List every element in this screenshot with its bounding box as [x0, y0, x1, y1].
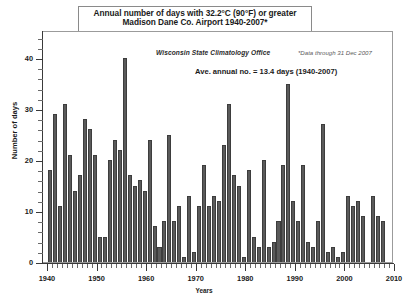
y-tick-minor	[38, 49, 43, 50]
annotation-footnote: *Data through 31 Dec 2007	[298, 49, 372, 56]
bar	[162, 221, 166, 262]
bar	[103, 237, 107, 263]
y-tick-minor	[38, 171, 43, 172]
x-tick-minor	[131, 264, 132, 268]
x-tick-minor	[320, 264, 321, 268]
x-tick-minor	[255, 264, 256, 268]
x-tick-minor	[310, 264, 311, 268]
x-tick-minor	[121, 264, 122, 268]
x-tick-minor	[151, 264, 152, 268]
x-tick-minor	[235, 264, 236, 268]
x-tick-minor	[369, 264, 370, 268]
chart-title-box: Annual number of days with 32.2°C (90°F)…	[78, 6, 312, 32]
x-tick-minor	[126, 264, 127, 268]
bar	[291, 201, 295, 262]
x-tick-minor	[136, 264, 137, 268]
x-tick-minor	[290, 264, 291, 268]
bar	[73, 191, 77, 262]
y-tick-major	[36, 161, 43, 162]
y-tick-label: 10	[9, 207, 33, 216]
x-tick-major	[245, 264, 246, 271]
x-tick-minor	[77, 264, 78, 268]
bar	[311, 247, 315, 262]
x-tick-major	[394, 264, 395, 271]
x-tick-label: 1990	[275, 274, 315, 283]
x-tick-minor	[225, 264, 226, 268]
x-tick-major	[146, 264, 147, 271]
bar	[143, 191, 147, 262]
x-tick-minor	[270, 264, 271, 268]
y-tick-label: 40	[9, 54, 33, 63]
bar	[133, 186, 137, 263]
bar	[53, 114, 57, 262]
bar	[68, 155, 72, 262]
y-tick-label: 0	[9, 258, 33, 267]
y-axis-line	[42, 31, 43, 264]
bar	[341, 252, 345, 262]
x-tick-minor	[260, 264, 261, 268]
bar-series	[43, 31, 393, 262]
bar	[232, 175, 236, 262]
plot-area: Wisconsin State Climatology Office *Data…	[42, 31, 393, 263]
x-tick-minor	[82, 264, 83, 268]
annotation-average: Ave. annual no. = 13.4 days (1940-2007)	[195, 67, 337, 76]
y-tick-minor	[38, 141, 43, 142]
x-tick-minor	[265, 264, 266, 268]
x-tick-minor	[325, 264, 326, 268]
x-tick-minor	[335, 264, 336, 268]
y-tick-minor	[38, 253, 43, 254]
x-axis-line	[42, 263, 394, 264]
bar	[286, 84, 290, 263]
bar	[207, 206, 211, 262]
bar	[361, 216, 365, 262]
x-tick-minor	[57, 264, 58, 268]
y-tick-major	[36, 110, 43, 111]
x-tick-minor	[106, 264, 107, 268]
bar	[118, 150, 122, 262]
bar	[192, 252, 196, 262]
bar	[296, 221, 300, 262]
bar	[148, 140, 152, 262]
x-tick-label: 1940	[27, 274, 67, 283]
bar	[276, 221, 280, 262]
x-axis-title: Years	[0, 287, 408, 294]
bar	[262, 160, 266, 262]
bar	[217, 201, 221, 262]
bar	[376, 216, 380, 262]
x-tick-label: 2000	[324, 274, 364, 283]
y-tick-minor	[38, 39, 43, 40]
x-tick-minor	[166, 264, 167, 268]
x-tick-minor	[116, 264, 117, 268]
x-tick-minor	[186, 264, 187, 268]
bar	[138, 180, 142, 262]
x-tick-minor	[330, 264, 331, 268]
y-tick-minor	[38, 100, 43, 101]
bar	[48, 170, 52, 262]
y-tick-minor	[38, 90, 43, 91]
chart-title-line-2: Madison Dane Co. Airport 1940-2007*	[81, 18, 309, 27]
bar	[128, 175, 132, 262]
x-tick-minor	[384, 264, 385, 268]
bar	[252, 237, 256, 263]
x-tick-minor	[374, 264, 375, 268]
bar	[98, 237, 102, 263]
y-tick-minor	[38, 130, 43, 131]
bar	[321, 124, 325, 262]
bar	[381, 221, 385, 262]
x-tick-minor	[230, 264, 231, 268]
bar	[301, 165, 305, 262]
x-tick-minor	[280, 264, 281, 268]
bar	[237, 186, 241, 263]
y-tick-minor	[38, 243, 43, 244]
bar	[157, 247, 161, 262]
bar	[212, 196, 216, 262]
bar	[83, 119, 87, 262]
bar	[346, 196, 350, 262]
y-tick-minor	[38, 232, 43, 233]
bar	[326, 252, 330, 262]
y-tick-minor	[38, 151, 43, 152]
x-tick-minor	[379, 264, 380, 268]
y-tick-minor	[38, 192, 43, 193]
x-tick-minor	[161, 264, 162, 268]
x-tick-minor	[201, 264, 202, 268]
